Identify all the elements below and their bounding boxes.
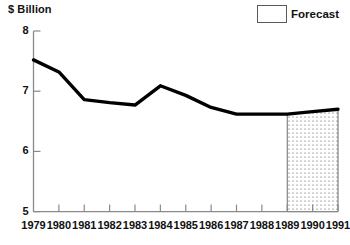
x-tick-label: 1981 xyxy=(72,219,96,231)
x-tick-label: 1980 xyxy=(47,219,71,231)
x-tick-label: 1986 xyxy=(199,219,223,231)
x-tick-label: 1988 xyxy=(250,219,274,231)
x-tick-label: 1987 xyxy=(224,219,248,231)
y-tick-label: 5 xyxy=(11,205,29,217)
x-tick-label: 1982 xyxy=(97,219,121,231)
y-axis-ticks xyxy=(34,31,41,212)
y-tick-label: 7 xyxy=(11,84,29,96)
x-tick-label: 1990 xyxy=(300,219,324,231)
data-series-line xyxy=(34,60,339,114)
x-tick-label: 1983 xyxy=(123,219,147,231)
x-tick-label: 1979 xyxy=(21,219,45,231)
forecast-region xyxy=(287,109,338,211)
x-tick-label: 1991 xyxy=(326,219,350,231)
y-tick-label: 6 xyxy=(11,144,29,156)
x-tick-label: 1984 xyxy=(148,219,172,231)
x-tick-label: 1989 xyxy=(275,219,299,231)
x-tick-label: 1985 xyxy=(174,219,198,231)
y-tick-label: 8 xyxy=(11,24,29,36)
